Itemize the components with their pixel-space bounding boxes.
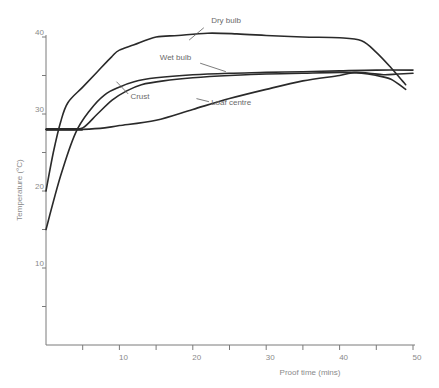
- y-tick-label: 40: [35, 28, 44, 37]
- series-lines: [46, 33, 413, 229]
- leader-line-wet-bulb: [200, 63, 226, 71]
- series-label-wet-bulb: Wet bulb: [160, 53, 192, 62]
- leader-line-loaf-centre: [196, 99, 208, 102]
- series-label-loaf-centre: Loaf centre: [211, 98, 252, 107]
- y-axis: 10203040: [35, 28, 46, 345]
- x-tick-label: 40: [339, 353, 348, 362]
- series-label-crust: Crust: [130, 92, 150, 101]
- x-tick-label: 30: [266, 353, 275, 362]
- y-tick-label: 30: [35, 105, 44, 114]
- x-tick-label: 20: [192, 353, 201, 362]
- x-axis-title: Proof time (mins): [280, 368, 341, 377]
- x-axis: 1020304050: [46, 345, 422, 362]
- y-tick-label: 10: [35, 259, 44, 268]
- temperature-chart: 10203040 1020304050 Temperature (°C) Pro…: [0, 0, 439, 388]
- series-label-dry-bulb: Dry bulb: [211, 16, 241, 25]
- series-labels: Dry bulbWet bulbCrustLoaf centre: [116, 16, 251, 107]
- x-tick-label: 10: [119, 353, 128, 362]
- y-axis-title: Temperature (°C): [15, 159, 24, 221]
- x-tick-label: 50: [413, 353, 422, 362]
- y-tick-label: 20: [35, 182, 44, 191]
- series-line-wet-bulb: [46, 70, 413, 229]
